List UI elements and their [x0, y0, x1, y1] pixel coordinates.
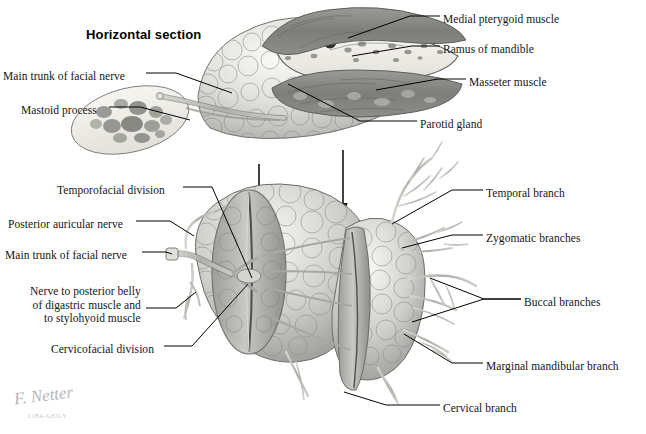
label-temporofacial-division: Temporofacial division	[57, 184, 165, 198]
label-mastoid-process: Mastoid process	[21, 104, 97, 118]
lower-parotid-figure	[166, 142, 476, 404]
label-cervicofacial-division: Cervicofacial division	[51, 343, 154, 357]
label-zygomatic-branches: Zygomatic branches	[486, 232, 580, 246]
leader-buccal-branches-upper	[430, 278, 521, 299]
copyright-notice: CIBA-GEIGY	[28, 413, 67, 419]
label-posterior-auricular-nerve: Posterior auricular nerve	[8, 218, 123, 232]
leader-posterior-auricular	[136, 221, 194, 236]
label-main-trunk-facial-nerve-lower: Main trunk of facial nerve	[5, 249, 127, 263]
label-temporal-branch: Temporal branch	[486, 187, 565, 201]
label-ramus-of-mandible: Ramus of mandible	[443, 43, 534, 57]
leader-buccal-branches-lower	[412, 299, 521, 322]
label-buccal-branches: Buccal branches	[524, 296, 600, 310]
label-masseter-muscle: Masseter muscle	[469, 76, 547, 90]
page-title: Horizontal section	[86, 27, 201, 42]
label-marginal-mandibular-branch: Marginal mandibular branch	[486, 360, 619, 374]
label-parotid-gland: Parotid gland	[420, 118, 482, 132]
mastoid-process-shape	[64, 74, 196, 165]
label-nerve-to-posterior-belly-digastric: Nerve to posterior belly of digastric mu…	[30, 285, 141, 326]
masseter-muscle-shape	[272, 70, 462, 117]
label-medial-pterygoid-muscle: Medial pterygoid muscle	[443, 13, 559, 27]
anatomical-plate: Horizontal section Main trunk of facial …	[0, 0, 646, 434]
label-cervical-branch: Cervical branch	[443, 402, 517, 416]
label-main-trunk-facial-nerve-upper: Main trunk of facial nerve	[3, 70, 125, 84]
